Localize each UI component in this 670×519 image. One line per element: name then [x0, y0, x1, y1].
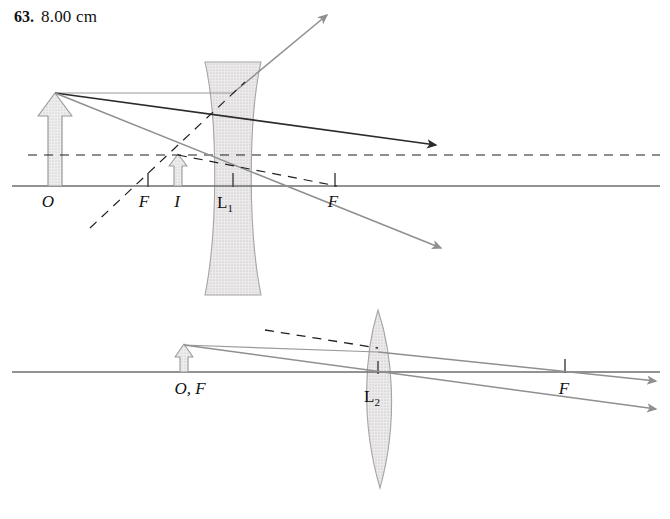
ray-refracted-upper-right	[233, 15, 327, 93]
label-lens-l2-letter: L	[364, 387, 374, 406]
label-image-upper: I	[173, 192, 181, 211]
figure-page: 63.8.00 cm	[0, 0, 670, 519]
label-object-upper: O	[42, 192, 54, 211]
lower-diagram: O, F L2 F	[12, 310, 660, 488]
object-arrow-lower	[175, 344, 193, 372]
label-object-focal-lower: O, F	[174, 379, 206, 398]
ray-chief-lower	[184, 345, 656, 409]
label-focal-left-upper: F	[138, 192, 150, 211]
label-lens-l2-subscript: 2	[374, 396, 380, 408]
dashed-virtual-extension-right	[178, 155, 337, 186]
image-arrow-upper	[169, 154, 187, 186]
label-lens-l1-letter: L	[217, 193, 227, 212]
label-lens-l1-subscript: 1	[227, 202, 233, 214]
label-focal-right-lower: F	[558, 379, 570, 398]
upper-diagram: O F I L1 F	[12, 15, 660, 295]
ray-diagram-figure: O F I L1 F O	[0, 0, 670, 519]
dashed-virtual-extension-lower	[265, 330, 378, 348]
label-focal-right-upper: F	[327, 192, 339, 211]
object-arrow-upper	[38, 93, 72, 186]
